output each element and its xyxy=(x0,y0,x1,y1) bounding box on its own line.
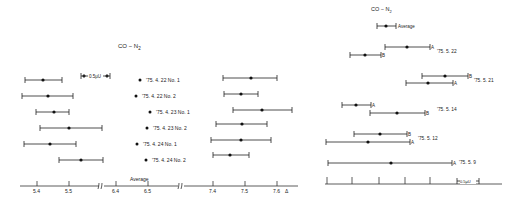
data-point xyxy=(67,126,70,129)
left-low-errorbar xyxy=(22,93,73,99)
series-letter: B xyxy=(426,111,429,116)
right-errorbar xyxy=(385,44,430,50)
date-label: '75. 5. 12 xyxy=(418,136,438,141)
right-bars: AverageABBAABBAA xyxy=(326,23,472,166)
data-point xyxy=(405,45,408,48)
right-panel-chart: CO − N2 AverageABBAABBAA '75. 5. 22'75. … xyxy=(325,6,502,184)
left-high-errorbar xyxy=(224,91,258,97)
right-title: CO − N2 xyxy=(371,6,393,14)
tick-label: 6.4 xyxy=(112,188,119,194)
date-label: '75. 5. 14 xyxy=(437,107,457,112)
right-errorbar xyxy=(406,80,453,86)
tick-label: 7.5 xyxy=(241,188,248,194)
data-point xyxy=(228,153,231,156)
right-errorbar xyxy=(328,160,452,166)
data-point xyxy=(443,74,446,77)
series-letter: A xyxy=(453,161,456,166)
series-letter: A xyxy=(411,140,414,145)
row-date-label: '75. 4. 23 No. 2 xyxy=(153,125,187,131)
data-point xyxy=(48,142,51,145)
tick-label: 6.5 xyxy=(144,188,151,194)
tick-label: 5.4 xyxy=(33,188,40,194)
series-letter: B xyxy=(469,74,472,79)
left-title: CO − N2 xyxy=(118,43,141,51)
right-x-ticks xyxy=(327,177,430,184)
right-errorbar xyxy=(370,110,425,116)
data-point xyxy=(52,110,55,113)
chart-canvas: CO − N2 0.5μU '75. 4. 22 No. 1'75. 4. 22… xyxy=(0,0,521,202)
row-date-label: '75. 4. 23 No. 1 xyxy=(156,109,190,115)
tick-label: 7.4 xyxy=(209,188,216,194)
left-low-errorbar xyxy=(24,141,76,147)
series-letter: A xyxy=(431,45,434,50)
data-point xyxy=(395,111,398,114)
data-point xyxy=(239,138,242,141)
left-rows: '75. 4. 22 No. 1'75. 4. 22 No. 2'75. 4. … xyxy=(22,75,292,163)
left-x-ticks: 5.45.56.46.57.47.57.6 xyxy=(33,181,280,194)
data-point xyxy=(249,76,252,79)
data-point xyxy=(384,24,387,27)
mid-data-point xyxy=(135,95,138,98)
series-letter: A xyxy=(372,103,375,108)
left-low-errorbar xyxy=(36,109,69,115)
series-letter: B xyxy=(408,132,411,137)
mid-data-point xyxy=(139,79,142,82)
data-point xyxy=(46,94,49,97)
left-high-errorbar xyxy=(213,152,249,158)
data-point xyxy=(41,78,44,81)
tick-label: 5.5 xyxy=(65,188,72,194)
row-date-label: '75. 4. 22 No. 1 xyxy=(146,77,180,83)
left-high-errorbar xyxy=(233,107,292,113)
right-errorbar xyxy=(354,131,407,137)
legend-label: Average xyxy=(398,24,415,29)
mid-data-point xyxy=(145,159,148,162)
left-x-axis xyxy=(20,183,298,189)
left-low-errorbar xyxy=(59,157,103,163)
left-scale-bar-label: 0.5μU xyxy=(89,74,101,79)
mid-data-point xyxy=(136,143,139,146)
data-point xyxy=(239,92,242,95)
mid-data-point xyxy=(146,127,149,130)
left-high-errorbar xyxy=(211,137,271,143)
data-point xyxy=(79,158,82,161)
date-label: '75. 5. 22 xyxy=(437,49,457,54)
data-point xyxy=(378,132,381,135)
series-letter: A xyxy=(454,81,457,86)
left-panel-chart: CO − N2 0.5μU '75. 4. 22 No. 1'75. 4. 22… xyxy=(20,43,298,194)
data-point xyxy=(389,161,392,164)
series-letter: B xyxy=(382,53,385,58)
left-low-errorbar xyxy=(40,125,102,131)
right-date-labels: '75. 5. 22'75. 5. 21'75. 5. 14'75. 5. 12… xyxy=(418,49,494,165)
right-errorbar xyxy=(422,73,468,79)
data-point xyxy=(366,140,369,143)
right-errorbar xyxy=(377,23,396,29)
tick-label: 7.6 xyxy=(273,188,280,194)
date-label: '75. 5. 21 xyxy=(474,78,494,83)
data-point xyxy=(260,108,263,111)
left-low-errorbar xyxy=(25,77,62,83)
left-high-errorbar xyxy=(223,75,277,81)
right-errorbar xyxy=(326,139,410,145)
row-date-label: '75. 4. 22 No. 2 xyxy=(142,93,176,99)
mid-data-point xyxy=(149,111,152,114)
date-label: '75. 5. 9 xyxy=(459,160,476,165)
left-average-label: Average xyxy=(130,176,149,182)
left-high-errorbar xyxy=(216,121,267,127)
data-point xyxy=(240,122,243,125)
row-date-label: '75. 4. 24 No. 2 xyxy=(152,157,186,163)
data-point xyxy=(354,103,357,106)
data-point xyxy=(426,81,429,84)
right-errorbar xyxy=(342,102,371,108)
row-date-label: '75. 4. 24 No. 1 xyxy=(143,141,177,147)
delta-symbol: Δ xyxy=(285,188,289,194)
right-scale-bar-label: 0.5μU xyxy=(460,179,471,184)
right-errorbar xyxy=(350,52,381,58)
data-point xyxy=(363,53,366,56)
